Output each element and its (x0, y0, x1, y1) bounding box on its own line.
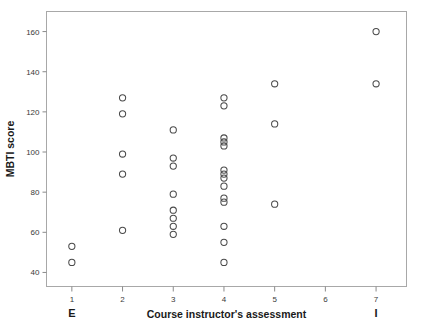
x-tick-label: 2 (120, 295, 125, 304)
pole-label-extravert: E (68, 307, 75, 319)
y-tick-label: 120 (26, 108, 40, 117)
y-tick-label: 160 (26, 28, 40, 37)
pole-label-introvert: I (375, 307, 378, 319)
y-tick-label: 140 (26, 68, 40, 77)
x-tick-label: 1 (70, 295, 75, 304)
y-axis-title: MBTI score (4, 121, 16, 178)
y-tick-label: 40 (31, 268, 40, 277)
x-axis-title: Course instructor's assessment (147, 308, 307, 320)
x-tick-label: 4 (222, 295, 227, 304)
y-tick-label: 60 (31, 228, 40, 237)
x-tick-label: 5 (272, 295, 277, 304)
x-tick-label: 7 (374, 295, 379, 304)
scatter-plot-figure: 406080100120140160 1234567 MBTI score Co… (0, 0, 421, 330)
x-tick-label: 6 (323, 295, 328, 304)
plot-canvas: 406080100120140160 1234567 MBTI score Co… (0, 0, 421, 330)
y-tick-label: 80 (31, 188, 40, 197)
y-tick-label: 100 (26, 148, 40, 157)
figure-background (0, 0, 421, 330)
x-tick-label: 3 (171, 295, 176, 304)
